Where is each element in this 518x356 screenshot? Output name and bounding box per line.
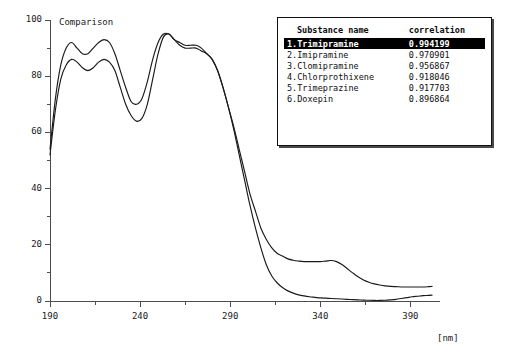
results-table-row[interactable]: 5.Trimeprazine0.917703 bbox=[284, 82, 485, 93]
y-tick-label: 80 bbox=[16, 70, 42, 80]
correlation-value-cell: 0.918046 bbox=[403, 71, 485, 82]
column-header-substance-name: Substance name bbox=[284, 25, 403, 38]
substance-name-cell: 4.Chlorprothixene bbox=[284, 71, 403, 82]
x-axis-unit-label: [nm] bbox=[437, 333, 459, 343]
substance-name-cell: 3.Clomipramine bbox=[284, 60, 403, 71]
y-tick-label: 100 bbox=[16, 14, 42, 24]
x-tick-label: 190 bbox=[32, 311, 68, 321]
y-tick-label: 40 bbox=[16, 183, 42, 193]
correlation-value-cell: 0.917703 bbox=[403, 82, 485, 93]
x-tick-label: 340 bbox=[302, 311, 338, 321]
y-tick-label: 20 bbox=[16, 239, 42, 249]
results-table-row[interactable]: 4.Chlorprothixene0.918046 bbox=[284, 71, 485, 82]
x-tick-label: 290 bbox=[212, 311, 248, 321]
results-table-row[interactable]: 3.Clomipramine0.956867 bbox=[284, 60, 485, 71]
results-table-header-row: Substance name correlation bbox=[284, 25, 485, 38]
results-table-row[interactable]: 2.Imipramine0.970901 bbox=[284, 49, 485, 60]
search-results-legend: Substance name correlation 1.Trimipramin… bbox=[277, 17, 492, 146]
x-tick-label: 240 bbox=[122, 311, 158, 321]
correlation-value-cell: 0.970901 bbox=[403, 49, 485, 60]
column-header-correlation: correlation bbox=[403, 25, 485, 38]
substance-name-cell: 5.Trimeprazine bbox=[284, 82, 403, 93]
spectrum-comparison-window: Comparison 020406080100 190240290340390 … bbox=[0, 0, 518, 356]
correlation-value-cell: 0.994199 bbox=[403, 38, 485, 49]
chart-title: Comparison bbox=[59, 17, 113, 27]
y-tick-label: 0 bbox=[16, 295, 42, 305]
substance-name-cell: 6.Doxepin bbox=[284, 93, 403, 104]
results-table-row[interactable]: 1.Trimipramine0.994199 bbox=[284, 38, 485, 49]
results-table: Substance name correlation 1.Trimipramin… bbox=[284, 25, 485, 104]
results-table-body: 1.Trimipramine0.9941992.Imipramine0.9709… bbox=[284, 38, 485, 104]
y-tick-label: 60 bbox=[16, 126, 42, 136]
results-table-row[interactable]: 6.Doxepin0.896864 bbox=[284, 93, 485, 104]
correlation-value-cell: 0.956867 bbox=[403, 60, 485, 71]
substance-name-cell: 1.Trimipramine bbox=[284, 38, 403, 49]
correlation-value-cell: 0.896864 bbox=[403, 93, 485, 104]
x-tick-label: 390 bbox=[392, 311, 428, 321]
substance-name-cell: 2.Imipramine bbox=[284, 49, 403, 60]
